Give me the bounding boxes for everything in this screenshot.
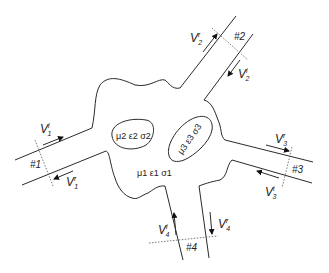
port-3-label: #3 bbox=[292, 164, 304, 175]
port-1-incident-label: Vi1 bbox=[40, 122, 52, 137]
port-4-reflected-arrow-icon bbox=[210, 212, 212, 234]
port-2-left-line bbox=[180, 16, 236, 88]
port-1-upper-line bbox=[15, 128, 92, 160]
port-4-right-line bbox=[199, 186, 209, 258]
multiport-diagram: μ2 ε2 σ2 μ3 ε3 σ3 μ1 ε1 σ1 #1 #2 #3 #4 V… bbox=[0, 0, 329, 273]
port-4-incident-label: Vi4 bbox=[158, 223, 170, 238]
port-1-label: #1 bbox=[30, 159, 41, 170]
inclusion-3-label: μ3 ε3 σ3 bbox=[175, 122, 203, 156]
port-1-reflected-label: Vr1 bbox=[66, 175, 78, 190]
port-4-reference-plane bbox=[149, 236, 218, 243]
port-3-upper-line bbox=[225, 140, 313, 162]
port-3-reference-plane bbox=[282, 147, 292, 188]
port-4-left-line bbox=[165, 186, 183, 260]
inclusion-2-label: μ2 ε2 σ2 bbox=[116, 131, 151, 141]
port-2-label: #2 bbox=[234, 31, 246, 42]
main-region-label: μ1 ε1 σ1 bbox=[137, 168, 172, 178]
port-3-incident-label: Vi3 bbox=[265, 185, 277, 200]
port-2-incident-label: Vi2 bbox=[238, 67, 250, 82]
port-4-reflected-label: Vr4 bbox=[218, 217, 230, 232]
port-4-label: #4 bbox=[186, 242, 198, 253]
port-3-reflected-label: Vr3 bbox=[275, 132, 287, 147]
port-2-reflected-label: Vr2 bbox=[190, 31, 202, 46]
